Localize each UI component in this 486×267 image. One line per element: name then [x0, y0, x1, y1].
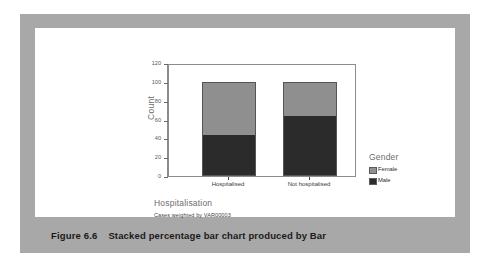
y-axis-tick-labels: 120 100 80 60 40 20 0: [139, 28, 161, 217]
figure-caption-text: Stacked percentage bar chart produced by…: [108, 230, 326, 241]
y-tick-label-100: 100: [139, 80, 161, 86]
y-tick-label-40: 40: [139, 136, 161, 142]
x-category-label-not-hospitalised: Not hospitalised: [288, 181, 331, 187]
figure-caption-number: Figure 6.6: [51, 230, 97, 241]
chart-footnote: Cases weighted by VAR00003: [154, 212, 231, 218]
legend-label-female: Female: [378, 167, 397, 173]
x-tick-not-hospitalised: [309, 177, 310, 180]
spss-bar-chart: 120 100 80 60 40 20 0 Count: [35, 28, 455, 217]
plot-inner: [169, 65, 355, 176]
bar-stack-not-hospitalised[interactable]: [283, 82, 337, 176]
legend-swatch-male-icon: [369, 178, 377, 185]
bar-segment-male-not-hospitalised[interactable]: [284, 116, 336, 175]
y-tick-0: [164, 177, 168, 178]
legend-title: Gender: [369, 152, 439, 162]
legend-label-male: Male: [378, 178, 391, 184]
figure-block: 120 100 80 60 40 20 0 Count: [20, 14, 470, 253]
x-axis-title: Hospitalisation: [154, 198, 212, 208]
legend-item-male[interactable]: Male: [369, 177, 439, 185]
legend-item-female[interactable]: Female: [369, 166, 439, 174]
y-axis-title: Count: [146, 96, 156, 120]
legend-swatch-female-icon: [369, 167, 377, 174]
bar-stack-hospitalised[interactable]: [202, 82, 256, 176]
y-tick-label-20: 20: [139, 155, 161, 161]
bar-segment-female-hospitalised[interactable]: [203, 83, 255, 135]
figure-caption: Figure 6.6 Stacked percentage bar chart …: [51, 224, 461, 246]
legend: Gender Female Male: [369, 152, 439, 188]
plot-frame: [168, 64, 356, 177]
y-tick-label-0: 0: [139, 174, 161, 180]
x-tick-hospitalised: [228, 177, 229, 180]
y-tick-label-120: 120: [139, 61, 161, 67]
bar-segment-male-hospitalised[interactable]: [203, 135, 255, 175]
x-category-label-hospitalised: Hospitalised: [212, 181, 245, 187]
chart-panel: 120 100 80 60 40 20 0 Count: [35, 28, 455, 217]
bar-segment-female-not-hospitalised[interactable]: [284, 83, 336, 116]
